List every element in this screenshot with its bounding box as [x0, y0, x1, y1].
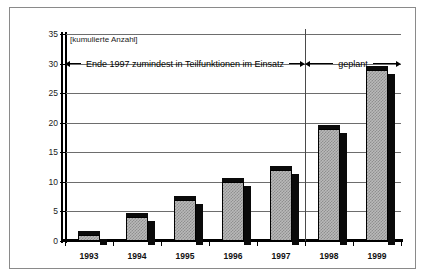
bar-shadow: [292, 174, 299, 245]
bar-shadow: [388, 74, 395, 246]
annotation-leader-line: [289, 63, 300, 64]
bar-1999: [366, 70, 387, 242]
plot-area: 05101520253035Ende 1997 zumindest in Tei…: [65, 34, 401, 241]
annotation-text: Ende 1997 zumindest in Teilfunktionen im…: [81, 59, 289, 69]
bar-1997: [270, 170, 291, 241]
y-axis-tick-label: 10: [49, 178, 58, 187]
y-tick-mark: [60, 34, 66, 35]
figure-frame: [kumulierte Anzahl] 05101520253035Ende 1…: [9, 7, 416, 269]
bar-shadow: [196, 204, 203, 245]
annotation-einsatz: Ende 1997 zumindest in Teilfunktionen im…: [65, 58, 305, 70]
gridline: [65, 93, 401, 94]
bar-face: [78, 235, 99, 241]
x-tick-mark: [353, 241, 354, 246]
y-axis-tick-label: 25: [49, 89, 58, 98]
x-axis-label-1995: 1995: [176, 251, 195, 261]
bar-shadow: [148, 221, 155, 245]
gridline: [65, 123, 401, 124]
bar-shadow: [340, 133, 347, 245]
y-tick-mark: [60, 182, 66, 183]
annotation-leader-line: [310, 63, 333, 64]
x-tick-mark: [305, 241, 306, 246]
annotation-leader-line: [70, 63, 81, 64]
x-axis-label-1994: 1994: [128, 251, 147, 261]
y-axis-tick-label: 5: [53, 207, 58, 216]
bar-1993: [78, 235, 99, 241]
y-tick-mark: [60, 93, 66, 94]
x-tick-mark: [209, 241, 210, 246]
bar-face: [222, 182, 243, 241]
y-axis-tick-label: 35: [49, 30, 58, 39]
bar-face: [174, 200, 195, 241]
bar-face: [126, 217, 147, 241]
x-axis-label-1997: 1997: [272, 251, 291, 261]
x-axis-label-1993: 1993: [80, 251, 99, 261]
bar-1995: [174, 200, 195, 241]
x-tick-mark: [257, 241, 258, 246]
x-axis-label-1998: 1998: [320, 251, 339, 261]
annotation-leader-line: [373, 63, 396, 64]
x-axis-label-1999: 1999: [368, 251, 387, 261]
bar-1998: [318, 129, 339, 241]
gridline: [65, 152, 401, 153]
bar-shadow: [244, 186, 251, 245]
x-tick-mark: [65, 241, 66, 246]
y-tick-mark: [60, 123, 66, 124]
y-axis-tick-label: 0: [53, 237, 58, 246]
bar-1996: [222, 182, 243, 241]
y-axis-tick-label: 20: [49, 118, 58, 127]
x-tick-mark: [401, 241, 402, 246]
bar-1994: [126, 217, 147, 241]
bar-shadow: [100, 239, 107, 245]
x-tick-mark: [113, 241, 114, 246]
bar-face: [366, 70, 387, 242]
y-tick-mark: [60, 152, 66, 153]
bar-face: [270, 170, 291, 241]
y-axis-tick-label: 30: [49, 59, 58, 68]
arrow-right-icon: [396, 61, 401, 67]
x-axis-label-1996: 1996: [224, 251, 243, 261]
y-axis-tick-label: 15: [49, 148, 58, 157]
x-tick-mark: [161, 241, 162, 246]
bar-face: [318, 129, 339, 241]
gridline: [65, 34, 401, 35]
y-tick-mark: [60, 211, 66, 212]
